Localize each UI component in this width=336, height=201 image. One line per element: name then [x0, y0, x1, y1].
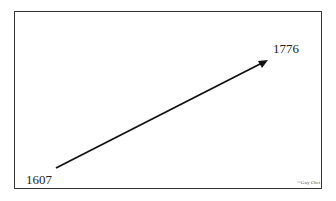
copyright-credit: ©Guy Chet	[297, 180, 320, 185]
start-year-label: 1607	[26, 172, 52, 188]
end-year-label: 1776	[273, 41, 299, 57]
timeline-arrow-icon	[0, 0, 336, 201]
